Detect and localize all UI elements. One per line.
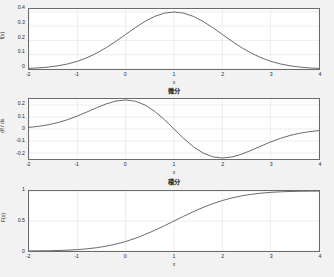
xtick-integral-5: 3 — [270, 254, 273, 259]
ytick-pdf-1: 0.1 — [0, 50, 25, 55]
xlabel-pdf: x — [173, 80, 176, 85]
ylabel-pdf: f(x) — [0, 32, 5, 40]
title-integral: 積分 — [168, 179, 180, 185]
xlabel-integral: x — [173, 262, 176, 267]
xtick-integral-2: 0 — [124, 254, 127, 259]
xtick-integral-3: 1 — [173, 254, 176, 259]
ytick-derivative-0: -0.2 — [0, 151, 25, 156]
plot-svg-pdf — [29, 9, 319, 69]
ytick-derivative-4: 0.2 — [0, 102, 25, 107]
gridlines-pdf — [29, 9, 319, 69]
xtick-derivative-1: -1 — [74, 162, 79, 167]
xtick-pdf-5: 3 — [270, 72, 273, 77]
xtick-pdf-3: 1 — [173, 72, 176, 77]
xtick-integral-6: 4 — [319, 254, 322, 259]
ytick-integral-2: 1 — [0, 187, 25, 192]
xtick-integral-4: 2 — [221, 254, 224, 259]
ylabel-derivative: df / dx — [0, 119, 5, 133]
xtick-derivative-6: 4 — [319, 162, 322, 167]
plot-svg-integral — [29, 191, 319, 251]
ytick-pdf-4: 0.4 — [0, 5, 25, 10]
xtick-pdf-2: 0 — [124, 72, 127, 77]
xtick-pdf-6: 4 — [319, 72, 322, 77]
xtick-pdf-4: 2 — [221, 72, 224, 77]
xtick-derivative-0: -2 — [26, 162, 31, 167]
figure-canvas: 0.4 0.3 0.2 0.1 0 f(x) -2 -1 0 1 2 3 4 x… — [0, 0, 334, 277]
ylabel-integral: F(x) — [1, 213, 6, 222]
title-derivative: 微分 — [168, 88, 180, 94]
xtick-pdf-0: -2 — [26, 72, 31, 77]
xtick-integral-0: -2 — [26, 254, 31, 259]
plot-panel-derivative — [28, 98, 320, 160]
xtick-derivative-5: 3 — [270, 162, 273, 167]
ytick-pdf-0: 0 — [0, 64, 25, 69]
ytick-integral-0: 0 — [0, 249, 25, 254]
ytick-derivative-1: -0.1 — [0, 139, 25, 144]
plot-panel-integral — [28, 190, 320, 252]
xtick-pdf-1: -1 — [74, 72, 79, 77]
xlabel-derivative: x — [173, 170, 176, 175]
xtick-integral-1: -1 — [74, 254, 79, 259]
plot-svg-derivative — [29, 99, 319, 159]
xtick-derivative-4: 2 — [221, 162, 224, 167]
xtick-derivative-3: 1 — [173, 162, 176, 167]
ytick-pdf-3: 0.3 — [0, 20, 25, 25]
plot-panel-pdf — [28, 8, 320, 70]
xtick-derivative-2: 0 — [124, 162, 127, 167]
